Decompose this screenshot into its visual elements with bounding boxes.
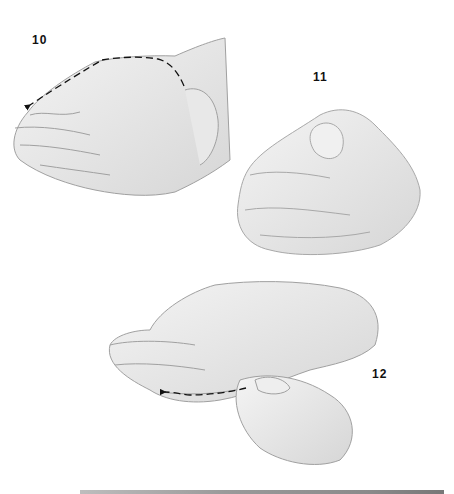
hand-10-drawing	[14, 38, 230, 195]
hand-12-drawing	[109, 282, 378, 465]
hand-11-drawing	[237, 110, 420, 255]
hand-illustration	[0, 0, 454, 494]
bottom-divider-bar	[80, 490, 444, 494]
